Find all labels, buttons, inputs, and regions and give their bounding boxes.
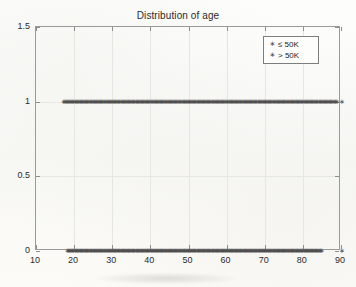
data-point-marker bbox=[104, 249, 108, 253]
data-point-marker bbox=[148, 249, 152, 253]
x-tick bbox=[227, 245, 228, 249]
data-point-marker bbox=[234, 249, 238, 253]
x-tick-top bbox=[112, 27, 113, 31]
x-tick-top bbox=[265, 27, 266, 31]
data-point-marker bbox=[164, 249, 168, 253]
data-point-marker bbox=[162, 249, 166, 253]
data-point-marker bbox=[161, 249, 165, 253]
data-point-marker bbox=[188, 249, 192, 253]
data-point-marker bbox=[95, 249, 99, 253]
data-point-marker bbox=[127, 249, 131, 253]
data-point-marker bbox=[187, 249, 191, 253]
data-point-marker bbox=[87, 249, 91, 253]
x-tick bbox=[303, 245, 304, 249]
y-tick-right bbox=[335, 27, 339, 28]
data-point-marker bbox=[278, 249, 282, 253]
x-tick-top bbox=[341, 27, 342, 31]
data-point-marker bbox=[67, 249, 71, 253]
data-point-marker bbox=[65, 249, 69, 253]
scan-smudge bbox=[96, 273, 236, 284]
data-point-marker bbox=[167, 249, 171, 253]
data-point-marker bbox=[114, 249, 118, 253]
data-point-marker bbox=[259, 249, 263, 253]
chart-legend: ∗ ≤ 50K ∗ > 50K bbox=[263, 36, 319, 64]
grid-line-vertical bbox=[150, 27, 151, 249]
data-point-marker bbox=[77, 249, 81, 253]
data-point-marker bbox=[261, 249, 265, 253]
data-point-marker bbox=[244, 249, 248, 253]
y-tick-right bbox=[335, 102, 339, 103]
data-point-marker bbox=[155, 249, 159, 253]
data-point-marker bbox=[242, 249, 246, 253]
y-axis-label: 0.5 bbox=[17, 170, 30, 180]
data-point-marker bbox=[267, 249, 271, 253]
x-tick bbox=[341, 245, 342, 249]
data-point-marker bbox=[190, 249, 194, 253]
y-tick bbox=[36, 176, 40, 177]
data-point-marker bbox=[211, 249, 215, 253]
data-point-marker bbox=[157, 249, 161, 253]
data-point-marker bbox=[269, 249, 273, 253]
data-point-marker bbox=[152, 249, 156, 253]
grid-line-horizontal bbox=[36, 102, 339, 103]
data-point-marker bbox=[156, 249, 160, 253]
data-point-marker bbox=[287, 249, 291, 253]
y-axis-label: 1.5 bbox=[17, 21, 30, 31]
data-point-marker bbox=[132, 249, 136, 253]
x-tick-top bbox=[74, 27, 75, 31]
data-point-marker bbox=[230, 249, 234, 253]
data-point-marker bbox=[298, 249, 302, 253]
data-point-marker bbox=[306, 249, 310, 253]
data-point-marker bbox=[151, 249, 155, 253]
x-tick-top bbox=[303, 27, 304, 31]
data-point-marker bbox=[270, 249, 274, 253]
data-point-marker bbox=[235, 249, 239, 253]
data-point-marker bbox=[184, 249, 188, 253]
data-point-marker bbox=[248, 249, 252, 253]
data-point-marker bbox=[189, 249, 193, 253]
data-point-marker bbox=[185, 249, 189, 253]
x-axis-label: 40 bbox=[144, 255, 154, 265]
data-point-marker bbox=[96, 249, 100, 253]
data-point-marker bbox=[94, 249, 98, 253]
data-point-marker bbox=[138, 249, 142, 253]
data-point-marker bbox=[197, 249, 201, 253]
data-point-marker bbox=[181, 249, 185, 253]
data-point-marker bbox=[296, 249, 300, 253]
data-point-marker bbox=[209, 249, 213, 253]
data-point-marker bbox=[284, 249, 288, 253]
data-point-marker bbox=[301, 249, 305, 253]
data-point-marker bbox=[310, 249, 314, 253]
data-point-marker bbox=[81, 249, 85, 253]
y-axis-label: 1 bbox=[25, 96, 30, 106]
data-point-marker bbox=[279, 249, 283, 253]
data-point-marker bbox=[292, 249, 296, 253]
data-point-marker bbox=[85, 249, 89, 253]
x-axis-label: 50 bbox=[182, 255, 192, 265]
x-axis-label: 10 bbox=[30, 255, 40, 265]
data-point-marker bbox=[159, 249, 163, 253]
x-tick bbox=[36, 245, 37, 249]
data-point-marker bbox=[179, 249, 183, 253]
data-point-marker bbox=[115, 249, 119, 253]
data-point-marker bbox=[200, 249, 204, 253]
data-point-marker bbox=[142, 249, 146, 253]
data-point-marker bbox=[303, 249, 307, 253]
data-point-marker bbox=[289, 249, 293, 253]
data-point-marker bbox=[120, 249, 124, 253]
data-point-marker bbox=[307, 249, 311, 253]
data-point-marker bbox=[225, 249, 229, 253]
data-point-marker bbox=[228, 249, 232, 253]
data-point-marker bbox=[165, 249, 169, 253]
data-point-marker bbox=[305, 249, 309, 253]
data-point-marker bbox=[316, 249, 320, 253]
data-point-marker bbox=[254, 249, 258, 253]
data-point-marker bbox=[80, 249, 84, 253]
data-point-marker bbox=[237, 249, 241, 253]
data-point-marker bbox=[226, 249, 230, 253]
data-point-marker bbox=[75, 249, 79, 253]
data-point-marker bbox=[195, 249, 199, 253]
data-point-marker bbox=[277, 249, 281, 253]
y-axis-label: 0 bbox=[25, 245, 30, 255]
data-point-marker bbox=[171, 249, 175, 253]
